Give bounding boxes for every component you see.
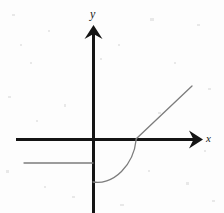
y-axis <box>85 25 103 213</box>
rising-curve <box>93 140 136 183</box>
y-axis-label: y <box>90 8 95 20</box>
x-axis-label: x <box>206 133 211 144</box>
rising-line <box>136 86 192 139</box>
coordinate-plot <box>0 0 224 213</box>
x-axis <box>16 131 203 149</box>
graph-figure: y x <box>0 0 224 213</box>
